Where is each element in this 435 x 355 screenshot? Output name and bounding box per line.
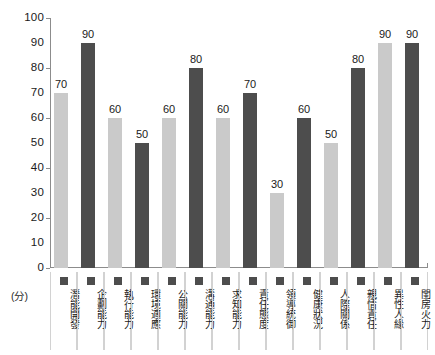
legend-item-label: 溝通能力 xyxy=(186,289,213,347)
legend-item-label-text: 閨房火力 xyxy=(402,289,429,329)
legend-item-label-text: 企劃能力 xyxy=(78,289,105,329)
bar-value-label: 30 xyxy=(270,179,284,190)
y-axis: 1009080706050403020100 xyxy=(0,18,50,268)
legend-item-label-text: 公關能力 xyxy=(159,289,186,329)
bar xyxy=(351,68,365,268)
bar xyxy=(324,143,338,268)
legend-swatch-icon xyxy=(330,277,338,285)
legend-item-label: 企劃能力 xyxy=(78,289,105,347)
legend-item-label: 人際關係 xyxy=(321,289,348,347)
legend-swatch-icon xyxy=(249,277,257,285)
legend-item: 領導統御 xyxy=(266,272,293,350)
y-axis-tick-label: 80 xyxy=(31,62,44,74)
y-axis-tick-label: 70 xyxy=(31,87,44,99)
bar-value-label: 90 xyxy=(378,29,392,40)
legend-item-label: 環境適應 xyxy=(132,289,159,347)
y-axis-tick-mark xyxy=(46,268,50,269)
legend-item-label-text: 人際關係 xyxy=(321,289,348,329)
y-axis-tick-label: 60 xyxy=(31,112,44,124)
legend-swatch-icon xyxy=(357,277,365,285)
category-legend: 潛能開發企劃能力執行能力環境適應公關能力溝通能力求知能力責任態度領導統御健康狀況… xyxy=(50,272,428,352)
y-axis-unit-label: (分) xyxy=(11,288,28,303)
legend-item: 執行能力 xyxy=(104,272,131,350)
bar-value-label: 70 xyxy=(243,79,257,90)
legend-item-label: 潛能開發 xyxy=(51,289,78,347)
legend-item: 溝通能力 xyxy=(185,272,212,350)
bar-value-label: 60 xyxy=(108,104,122,115)
bar-value-label: 90 xyxy=(405,29,419,40)
legend-item: 環境適應 xyxy=(131,272,158,350)
legend-swatch-icon xyxy=(141,277,149,285)
legend-swatch-icon xyxy=(168,277,176,285)
y-axis-tick-label: 0 xyxy=(37,262,44,274)
legend-item-label: 閨房火力 xyxy=(402,289,429,347)
bar-value-label: 60 xyxy=(216,104,230,115)
legend-swatch-icon xyxy=(384,277,392,285)
bar-group: 50 xyxy=(131,18,158,268)
bar-group: 60 xyxy=(158,18,185,268)
bar-value-label: 50 xyxy=(135,129,149,140)
y-axis-tick-label: 20 xyxy=(31,212,44,224)
y-axis-tick-label: 100 xyxy=(24,12,44,24)
y-axis-tick-mark xyxy=(46,18,50,19)
y-axis-tick-label: 50 xyxy=(31,137,44,149)
legend-item-label-text: 健康狀況 xyxy=(294,289,321,329)
legend-item-label-text: 溝通能力 xyxy=(186,289,213,329)
legend-item-label: 健康狀況 xyxy=(294,289,321,347)
bars-layer: 7090605060806070306050809090 xyxy=(50,18,428,268)
legend-item-label-text: 領導統御 xyxy=(267,289,294,329)
legend-item: 公關能力 xyxy=(158,272,185,350)
bar xyxy=(270,193,284,268)
bar xyxy=(54,93,68,268)
legend-item: 人際關係 xyxy=(320,272,347,350)
bar-group: 60 xyxy=(104,18,131,268)
legend-item: 責任態度 xyxy=(239,272,266,350)
legend-item: 異性人緣 xyxy=(374,272,401,350)
legend-swatch-icon xyxy=(60,277,68,285)
legend-swatch-icon xyxy=(195,277,203,285)
bar-group: 70 xyxy=(239,18,266,268)
bar-group: 80 xyxy=(347,18,374,268)
y-axis-tick-label: 10 xyxy=(31,237,44,249)
bar-group: 50 xyxy=(320,18,347,268)
plot-area: 7090605060806070306050809090 xyxy=(50,18,428,268)
bar-group: 90 xyxy=(77,18,104,268)
bar-group: 80 xyxy=(185,18,212,268)
bar xyxy=(189,68,203,268)
legend-item-label-text: 潛能開發 xyxy=(51,289,78,329)
bar xyxy=(135,143,149,268)
bar-group: 90 xyxy=(374,18,401,268)
legend-item-label-text: 求知能力 xyxy=(213,289,240,329)
legend-item-label: 執行能力 xyxy=(105,289,132,347)
legend-item-label-text: 執行能力 xyxy=(105,289,132,329)
legend-swatch-icon xyxy=(303,277,311,285)
legend-item: 閨房火力 xyxy=(401,272,428,350)
y-axis-tick-label: 40 xyxy=(31,162,44,174)
legend-swatch-icon xyxy=(114,277,122,285)
bar-group: 90 xyxy=(401,18,428,268)
legend-swatch-icon xyxy=(222,277,230,285)
legend-swatch-icon xyxy=(276,277,284,285)
bar xyxy=(297,118,311,268)
legend-item-label-text: 親情責任 xyxy=(348,289,375,329)
legend-item: 企劃能力 xyxy=(77,272,104,350)
legend-item-label: 公關能力 xyxy=(159,289,186,347)
bar-group: 60 xyxy=(293,18,320,268)
bar xyxy=(378,43,392,268)
legend-item-label-text: 環境適應 xyxy=(132,289,159,329)
bar-value-label: 90 xyxy=(81,29,95,40)
bar-value-label: 50 xyxy=(324,129,338,140)
y-axis-tick-label: 90 xyxy=(31,37,44,49)
legend-item-label-text: 責任態度 xyxy=(240,289,267,329)
legend-item-label: 親情責任 xyxy=(348,289,375,347)
y-axis-tick-mark xyxy=(46,218,50,219)
y-axis-tick-label: 30 xyxy=(31,187,44,199)
legend-item: 潛能開發 xyxy=(50,272,77,350)
bar-value-label: 70 xyxy=(54,79,68,90)
bar xyxy=(405,43,419,268)
y-axis-tick-mark xyxy=(46,68,50,69)
y-axis-tick-mark xyxy=(46,118,50,119)
bar xyxy=(216,118,230,268)
legend-item-label: 異性人緣 xyxy=(375,289,402,347)
bar-group: 70 xyxy=(50,18,77,268)
